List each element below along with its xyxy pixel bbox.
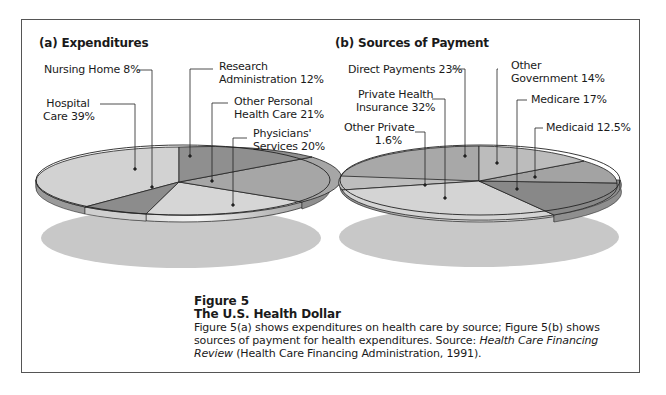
panel-title-expenditures: (a) Expenditures bbox=[39, 36, 148, 50]
label-other-private: Other Private 1.6% bbox=[344, 121, 410, 147]
caption-line-2: sources of payment for health expenditur… bbox=[194, 334, 600, 347]
caption-line-1: Figure 5(a) shows expenditures on health… bbox=[194, 321, 600, 334]
label-medicaid: Medicaid 12.5% bbox=[546, 121, 631, 134]
label-research-administration: Research Administration 12% bbox=[219, 60, 324, 86]
label-other-government: Other Government 14% bbox=[511, 59, 605, 85]
label-hospital-care: Hospital Care 39% bbox=[43, 97, 93, 123]
panel-title-sources-of-payment: (b) Sources of Payment bbox=[335, 36, 489, 50]
caption-line-3: Review (Health Care Financing Administra… bbox=[194, 347, 600, 360]
label-nursing-home: Nursing Home 8% bbox=[44, 63, 140, 76]
label-other-personal-health-care: Other Personal Health Care 21% bbox=[234, 95, 324, 121]
label-physicians-services: Physicians' Services 20% bbox=[253, 127, 325, 153]
figure-caption: Figure 5 The U.S. Health Dollar Figure 5… bbox=[194, 295, 600, 360]
label-private-health-insurance: Private Health Insurance 32% bbox=[356, 88, 435, 114]
figure-title: The U.S. Health Dollar bbox=[194, 308, 600, 321]
label-direct-payments: Direct Payments 23% bbox=[348, 63, 462, 76]
label-medicare: Medicare 17% bbox=[531, 93, 607, 106]
